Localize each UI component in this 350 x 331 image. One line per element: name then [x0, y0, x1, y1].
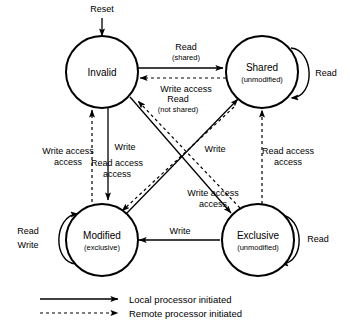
modified-to-shared-label: Write [205, 144, 226, 154]
invalid-to-exclusive-label: Read [167, 94, 189, 104]
shared-to-modified-label-word2: access [103, 169, 132, 179]
invalid-to-shared-sublabel: (shared) [172, 53, 200, 62]
edge-modified-to-invalid: Write access [42, 110, 94, 202]
legend: Local processor initiated Remote process… [40, 294, 242, 319]
edge-invalid-to-shared: Read (shared) [138, 42, 223, 68]
shared-to-invalid-label: Write access [160, 84, 212, 94]
mesi-state-diagram: Reset Read Read Read Write Read (shared)… [0, 0, 350, 331]
modified-read-loop-label: Read [17, 226, 39, 236]
state-node-invalid[interactable]: Invalid [66, 36, 138, 108]
edge-exclusive-to-modified: Write [139, 226, 220, 240]
legend-local-label: Local processor initiated [129, 294, 231, 305]
invalid-to-modified-label: Write [115, 142, 136, 152]
state-node-modified[interactable]: Modified (exclusive) [66, 204, 138, 276]
invalid-to-exclusive-sublabel: (not shared) [158, 105, 199, 114]
exclusive-sublabel: (unmodified) [237, 243, 279, 252]
modified-write-loop-label: Write [18, 240, 39, 250]
reset-entry: Reset [90, 4, 114, 36]
shared-label: Shared [246, 62, 278, 73]
modified-to-invalid-label-word1: Write access [42, 146, 94, 156]
exclusive-to-shared-label-word2: access [274, 157, 303, 167]
exclusive-to-invalid-label-line1: Write access [187, 188, 239, 198]
edge-exclusive-to-invalid: Write access [138, 101, 240, 208]
reset-label: Reset [90, 4, 114, 14]
shared-read-loop-label: Read [315, 68, 337, 78]
state-node-shared[interactable]: Shared (unmodified) [226, 36, 298, 108]
edge-shared-to-invalid: Write access [140, 78, 226, 94]
exclusive-label: Exclusive [237, 230, 280, 241]
modified-label: Modified [83, 230, 121, 241]
exclusive-to-shared-label: Read access [262, 146, 315, 156]
exclusive-to-modified-label: Write [170, 226, 191, 236]
legend-remote-label: Remote processor initiated [129, 308, 242, 319]
modified-sublabel: (exclusive) [84, 243, 120, 252]
state-node-exclusive[interactable]: Exclusive (unmodified) [222, 204, 294, 276]
shared-sublabel: (unmodified) [241, 75, 283, 84]
shared-to-modified-label: Read access [91, 158, 144, 168]
modified-to-invalid-label-word2: access [54, 157, 83, 167]
invalid-to-shared-label: Read [175, 42, 197, 52]
state-diagram-page: Reset Read Read Read Write Read (shared)… [0, 0, 350, 331]
edge-invalid-to-modified: Write [108, 108, 135, 200]
exclusive-to-invalid-label-word2: access [199, 199, 228, 209]
invalid-label: Invalid [88, 67, 117, 78]
exclusive-read-loop-label: Read [307, 234, 329, 244]
